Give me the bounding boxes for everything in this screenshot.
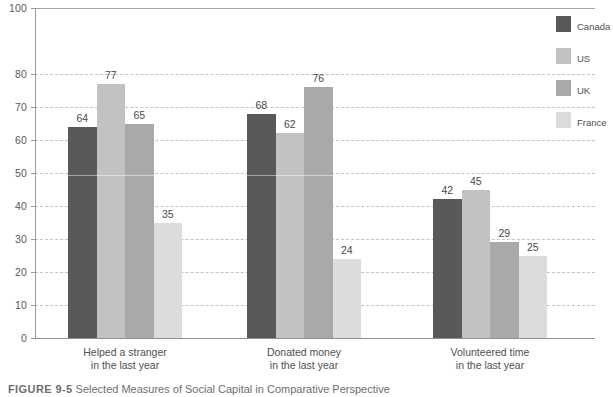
bar-france-2: [519, 256, 548, 339]
legend-swatch-uk: [556, 80, 571, 96]
bar-value-label: 76: [298, 73, 338, 84]
legend-item-france[interactable]: France: [556, 112, 613, 144]
bar-value-label: 45: [456, 176, 496, 187]
y-axis-label-40: 40: [0, 201, 27, 212]
y-tick-0: [31, 338, 36, 339]
plot-area: 646842776245657629352425: [35, 8, 595, 338]
category-label-line: in the last year: [410, 359, 570, 372]
category-label-line: in the last year: [45, 359, 205, 372]
bar-value-label: 25: [513, 242, 553, 253]
category-label-line: Volunteered time: [410, 346, 570, 359]
bar-us-2: [462, 190, 491, 339]
figure-caption-text: Selected Measures of Social Capital in C…: [76, 383, 390, 395]
y-axis-label-70: 70: [0, 102, 27, 113]
bar-france-0: [154, 223, 183, 339]
bar-us-1: [276, 133, 305, 338]
legend-item-us[interactable]: US: [556, 48, 613, 80]
bar-value-label: 65: [119, 110, 159, 121]
bar-value-label: 35: [148, 209, 188, 220]
bar-value-label: 24: [327, 245, 367, 256]
bar-canada-0: [68, 127, 97, 338]
bar-value-label: 68: [241, 100, 281, 111]
y-axis-label-50: 50: [0, 168, 27, 179]
category-label-0: Helped a strangerin the last year: [45, 346, 205, 372]
figure-caption: FIGURE 9-5 Selected Measures of Social C…: [8, 383, 608, 396]
bar-us-0: [97, 84, 126, 338]
category-label-line: Donated money: [224, 346, 384, 359]
bar-uk-1: [304, 87, 333, 338]
legend-swatch-france: [556, 112, 571, 128]
bar-uk-2: [490, 242, 519, 338]
bar-canada-1: [247, 114, 276, 338]
bar-france-1: [333, 259, 362, 338]
bar-canada-2: [433, 199, 462, 338]
y-axis-label-60: 60: [0, 135, 27, 146]
legend-label: UK: [577, 85, 590, 96]
x-axis-line: [35, 338, 595, 339]
legend-item-uk[interactable]: UK: [556, 80, 613, 112]
legend-label: Canada: [577, 21, 610, 32]
y-axis-label-0: 0: [0, 333, 27, 344]
figure-container: 01020304050607080100 6468427762456576293…: [0, 0, 613, 397]
legend: CanadaUSUKFrance: [556, 16, 613, 144]
legend-swatch-canada: [556, 16, 571, 32]
y-axis-label-100: 100: [0, 3, 27, 14]
category-label-2: Volunteered timein the last year: [410, 346, 570, 372]
category-label-1: Donated moneyin the last year: [224, 346, 384, 372]
category-label-line: in the last year: [224, 359, 384, 372]
y-axis-label-20: 20: [0, 267, 27, 278]
y-axis-label-30: 30: [0, 234, 27, 245]
figure-number: FIGURE 9-5: [8, 383, 73, 395]
legend-label: France: [577, 117, 607, 128]
legend-swatch-us: [556, 48, 571, 64]
legend-label: US: [577, 53, 590, 64]
category-label-line: Helped a stranger: [45, 346, 205, 359]
legend-item-canada[interactable]: Canada: [556, 16, 613, 48]
y-axis-label-80: 80: [0, 69, 27, 80]
y-axis-label-10: 10: [0, 300, 27, 311]
bar-uk-0: [125, 124, 154, 339]
bar-value-label: 29: [484, 228, 524, 239]
bar-value-label: 77: [91, 70, 131, 81]
